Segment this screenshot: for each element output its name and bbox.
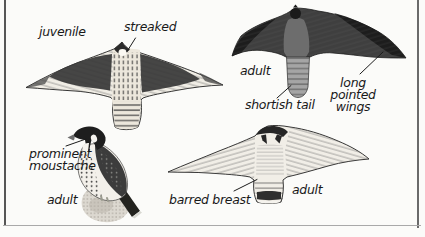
label-barred-breast: barred breast <box>169 194 250 206</box>
perched-adult-falcon-illustration <box>68 126 143 222</box>
juvenile-falcon-underside-illustration <box>26 42 223 130</box>
label-juvenile: juvenile <box>39 26 86 38</box>
label-streaked: streaked <box>124 21 176 33</box>
label-shortish-tail: shortish tail <box>245 99 315 111</box>
label-long-pointed-wings: long pointed wings <box>327 77 379 113</box>
leader-line-prominent-moustache <box>66 139 86 146</box>
label-adult-underside: adult <box>292 184 322 196</box>
field-guide-page: juvenile streaked adult shortish tail lo… <box>0 0 425 237</box>
label-adult-perched: adult <box>47 194 77 206</box>
label-adult-upperside: adult <box>240 65 270 77</box>
adult-falcon-upperside-illustration <box>232 5 406 98</box>
label-prominent-moustache: prominent moustache <box>29 148 96 172</box>
